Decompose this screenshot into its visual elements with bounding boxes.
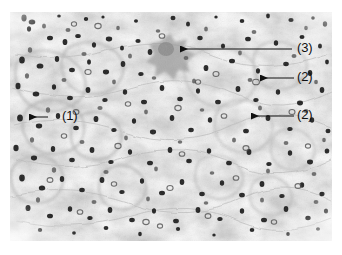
annotation-label-3: (3) (297, 41, 312, 54)
micrograph-canvas (10, 12, 332, 241)
annotation-label-1: (1) (62, 109, 77, 122)
annotation-label-2a: (2) (297, 70, 312, 83)
micrograph-image (10, 12, 332, 241)
annotation-label-2b: (2) (297, 108, 312, 121)
edge-vignette (10, 12, 332, 241)
figure-root: (3) (2) (2) (1) (0, 0, 342, 255)
